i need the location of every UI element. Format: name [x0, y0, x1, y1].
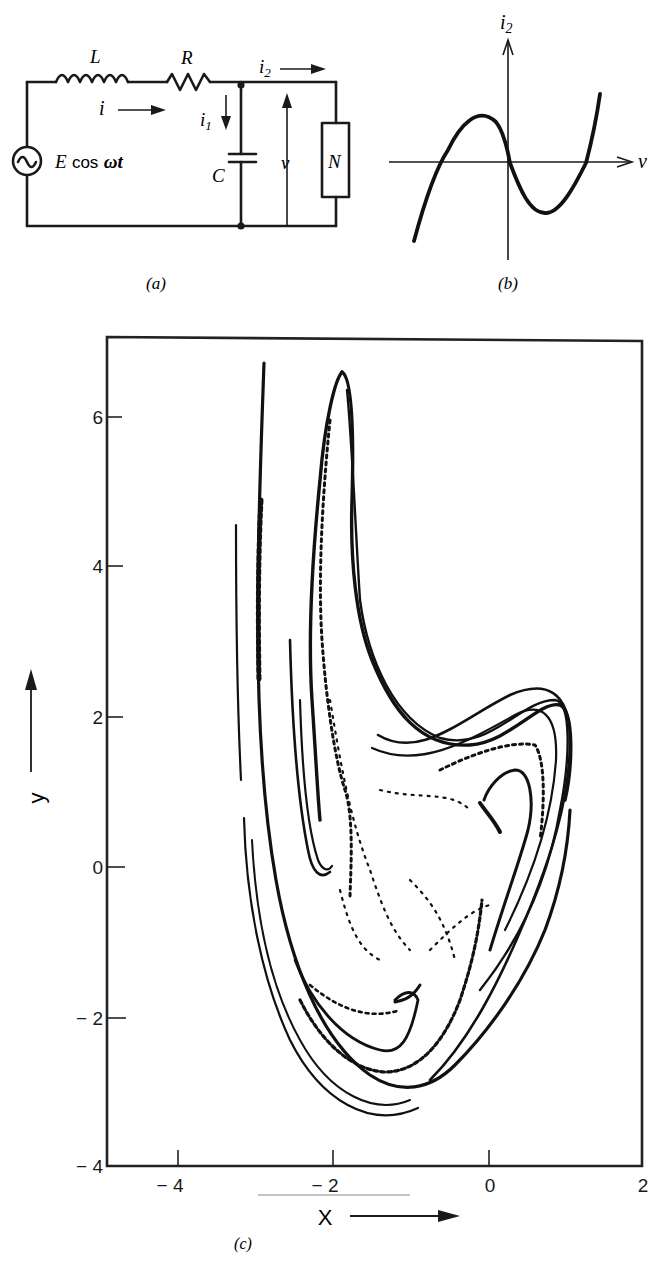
voltage-label: v — [281, 152, 290, 173]
y-axis-ticks — [107, 417, 126, 1018]
y-tick-neg2: − 2 — [76, 1008, 103, 1029]
resistor-label: R — [180, 47, 193, 68]
x-tick-2: 2 — [638, 1175, 649, 1196]
x-axis-arrow-icon — [350, 1210, 460, 1222]
nonlinear-element-label: N — [327, 151, 342, 172]
y-tick-neg4: − 4 — [76, 1156, 103, 1177]
i2-axis-label: i2 — [500, 11, 513, 36]
inner-fold-strand — [310, 372, 342, 820]
resistor-icon — [167, 74, 210, 90]
attractor-strands — [236, 363, 571, 1115]
left-tongue-strand — [236, 525, 241, 780]
plot-frame — [107, 337, 642, 1166]
current-i2-arrow-icon — [280, 64, 326, 74]
iv-characteristic-plot: i2 v (b) — [389, 11, 647, 293]
x-tick-neg2: − 2 — [312, 1175, 339, 1196]
circuit-diagram: L R i i1 i2 C v N E cos ωt (a) — [13, 46, 349, 293]
x-axis-tick-labels: − 4 − 2 0 2 — [157, 1175, 649, 1196]
source-label: E cos ωt — [54, 151, 123, 172]
capacitor-label: C — [212, 165, 225, 186]
node-top — [237, 81, 244, 88]
x-axis-label: X — [318, 1205, 333, 1230]
inductor-label: L — [89, 46, 101, 67]
attractor-plot: 6 4 2 0 − 2 − 4 − 4 − 2 0 2 X y — [24, 337, 648, 1253]
y-axis-tick-labels: 6 4 2 0 − 2 − 4 — [76, 407, 103, 1177]
current-i1-label: i1 — [200, 109, 212, 133]
iv-curve — [414, 94, 600, 241]
y-axis-label: y — [24, 793, 49, 804]
inductor-icon — [56, 75, 128, 82]
y-tick-0: 0 — [92, 857, 103, 878]
caption-a: (a) — [146, 274, 166, 293]
caption-c: (c) — [234, 1235, 252, 1253]
y-axis-arrow-icon — [25, 669, 37, 772]
current-i2-label: i2 — [259, 56, 271, 80]
caption-b: (b) — [498, 274, 518, 293]
figure-canvas: L R i i1 i2 C v N E cos ωt (a) i2 v (b) — [0, 0, 664, 1264]
ac-source-icon — [13, 147, 41, 175]
y-tick-4: 4 — [92, 556, 103, 577]
node-bottom — [237, 222, 244, 229]
current-i1-arrow-icon — [221, 95, 231, 130]
x-axis-ticks — [178, 1150, 489, 1166]
x-tick-0: 0 — [485, 1175, 496, 1196]
v-axis-label: v — [638, 150, 647, 172]
y-tick-6: 6 — [92, 407, 103, 428]
current-i-arrow-icon — [118, 105, 166, 115]
y-tick-2: 2 — [92, 707, 103, 728]
x-tick-neg4: − 4 — [157, 1175, 184, 1196]
current-i-label: i — [99, 97, 105, 119]
